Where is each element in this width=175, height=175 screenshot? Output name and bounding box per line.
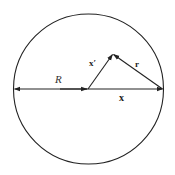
label-R: R <box>54 73 62 85</box>
label-x-prime: x′ <box>89 58 96 68</box>
label-x: x <box>119 92 124 103</box>
circle-vector-diagram: R x x′ r <box>0 0 175 175</box>
label-r: r <box>135 59 139 69</box>
